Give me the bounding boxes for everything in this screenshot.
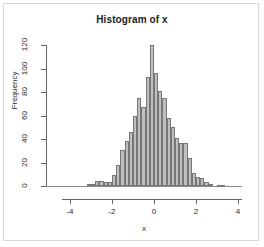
x-axis-title: x	[46, 224, 242, 233]
histogram-screenshot: Histogram of x 020406080100120 -4-2024 F…	[0, 0, 264, 247]
histogram-bar	[209, 184, 213, 186]
histogram-bar	[221, 185, 225, 187]
histogram-bars	[0, 0, 264, 247]
y-axis-title: Frequency	[10, 51, 19, 131]
